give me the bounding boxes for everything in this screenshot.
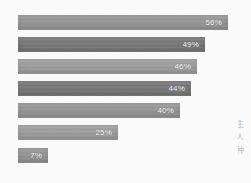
side-annotation-line: 人 xyxy=(238,131,251,144)
clipped-side-annotation: 主 人 种 xyxy=(238,118,251,157)
bar-value-label: 44% xyxy=(168,85,191,93)
bar-value-label: 46% xyxy=(174,63,197,71)
bar-fill: 49% xyxy=(18,37,205,52)
bar-value-label: 25% xyxy=(95,129,118,137)
side-annotation-line: 种 xyxy=(238,144,251,157)
bar-value-label: 7% xyxy=(30,152,48,160)
bar-series: 56% 49% 46% 44% 40% 25% xyxy=(0,0,251,183)
bar-row: 25% xyxy=(18,125,118,140)
bar-row: 56% xyxy=(18,15,228,30)
bar-value-label: 40% xyxy=(157,107,180,115)
bar-value-label: 49% xyxy=(182,41,205,49)
bar-fill: 46% xyxy=(18,59,197,74)
bar-row: 7% xyxy=(18,148,48,163)
bar-fill: 7% xyxy=(18,148,48,163)
side-annotation-line: 主 xyxy=(238,118,251,131)
bar-chart: 56% 49% 46% 44% 40% 25% xyxy=(0,0,251,183)
bar-row: 46% xyxy=(18,59,197,74)
bar-fill: 25% xyxy=(18,125,118,140)
bar-fill: 44% xyxy=(18,81,191,96)
bar-row: 44% xyxy=(18,81,191,96)
bar-fill: 56% xyxy=(18,15,228,30)
bar-row: 40% xyxy=(18,103,180,118)
bar-value-label: 56% xyxy=(205,19,228,27)
bar-fill: 40% xyxy=(18,103,180,118)
bar-row: 49% xyxy=(18,37,205,52)
